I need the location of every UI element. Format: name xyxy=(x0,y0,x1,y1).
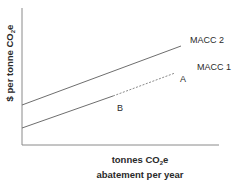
x-axis-label-line2: abatement per year xyxy=(70,169,210,181)
point-b-label: B xyxy=(117,103,123,113)
macc1-line-solid xyxy=(22,96,113,128)
point-a-label: A xyxy=(180,74,186,84)
x-axis-label: tonnes CO2e abatement per year xyxy=(70,154,210,181)
macc2-label: MACC 2 xyxy=(190,35,224,45)
y-axis-label: $ per tonne CO2e xyxy=(4,8,16,118)
macc1-line-dashed xyxy=(113,73,175,96)
x-axis-label-line1: tonnes CO2e xyxy=(70,154,210,169)
macc2-line xyxy=(22,46,181,105)
macc1-label: MACC 1 xyxy=(197,62,231,72)
